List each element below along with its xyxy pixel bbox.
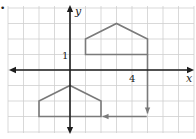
arrowhead-icon xyxy=(9,67,16,73)
arrowhead-icon xyxy=(103,114,109,119)
arrowhead-icon xyxy=(67,5,73,12)
axis-labels: y x 1 4 xyxy=(62,5,193,85)
arrowhead-icon xyxy=(67,127,73,134)
transformation-arrows xyxy=(103,55,151,120)
coordinate-diagram: • y x 1 4 xyxy=(0,0,196,139)
plot-area: y x 1 4 xyxy=(0,0,196,139)
x-axis-label: x xyxy=(186,72,193,85)
y-axis-label: y xyxy=(74,5,82,18)
arrowhead-icon xyxy=(145,107,150,113)
bullet: • xyxy=(0,3,5,13)
y-tick-label-1: 1 xyxy=(62,50,68,61)
x-tick-label-4: 4 xyxy=(129,73,135,84)
